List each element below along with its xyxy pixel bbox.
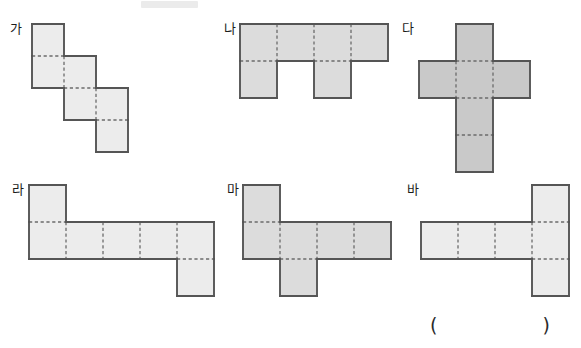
figure-label-ra: 라 xyxy=(12,183,24,196)
grid-cell xyxy=(314,61,351,98)
figure-da[interactable] xyxy=(417,22,532,174)
figure-label-ma: 마 xyxy=(227,183,239,196)
answer-paren-right: ) xyxy=(543,312,550,338)
grid-cell xyxy=(140,222,177,259)
figure-label-ba: 바 xyxy=(407,183,419,196)
grid-cell xyxy=(66,222,103,259)
figure-ba[interactable] xyxy=(419,183,571,298)
grid-cell xyxy=(64,88,96,120)
grid-cell xyxy=(421,222,458,259)
answer-blank[interactable]: ( ) xyxy=(430,312,550,338)
grid-cell xyxy=(64,56,96,88)
figure-na[interactable] xyxy=(238,22,390,100)
answer-paren-left: ( xyxy=(430,312,437,338)
grid-cell xyxy=(532,222,569,259)
grid-cell xyxy=(32,56,64,88)
figure-ga[interactable] xyxy=(30,22,130,154)
scan-smudge-artifact xyxy=(141,1,198,8)
figure-label-na: 나 xyxy=(224,22,236,35)
grid-cell xyxy=(103,222,140,259)
figure-label-da: 다 xyxy=(402,22,414,35)
grid-cell xyxy=(96,88,128,120)
grid-cell xyxy=(493,61,530,98)
grid-cell xyxy=(29,222,66,259)
grid-cell xyxy=(458,222,495,259)
grid-cell xyxy=(96,120,128,152)
grid-cell xyxy=(32,24,64,56)
grid-cell xyxy=(351,24,388,61)
grid-cell xyxy=(456,98,493,135)
figure-label-ga: 가 xyxy=(10,22,22,35)
grid-cell xyxy=(456,61,493,98)
grid-cell xyxy=(280,259,317,296)
grid-cell xyxy=(280,222,317,259)
grid-cell xyxy=(456,135,493,172)
grid-cell xyxy=(29,185,66,222)
grid-cell xyxy=(317,222,354,259)
grid-cell xyxy=(354,222,391,259)
figure-ra[interactable] xyxy=(27,183,216,298)
grid-cell xyxy=(277,24,314,61)
grid-cell xyxy=(532,259,569,296)
figure-ma[interactable] xyxy=(241,183,393,298)
grid-cell xyxy=(419,61,456,98)
grid-cell xyxy=(243,222,280,259)
grid-cell xyxy=(240,61,277,98)
grid-cell xyxy=(314,24,351,61)
grid-cell xyxy=(177,222,214,259)
grid-cell xyxy=(456,24,493,61)
grid-cell xyxy=(532,185,569,222)
grid-cell xyxy=(240,24,277,61)
grid-cell xyxy=(243,185,280,222)
grid-cell xyxy=(495,222,532,259)
grid-cell xyxy=(177,259,214,296)
